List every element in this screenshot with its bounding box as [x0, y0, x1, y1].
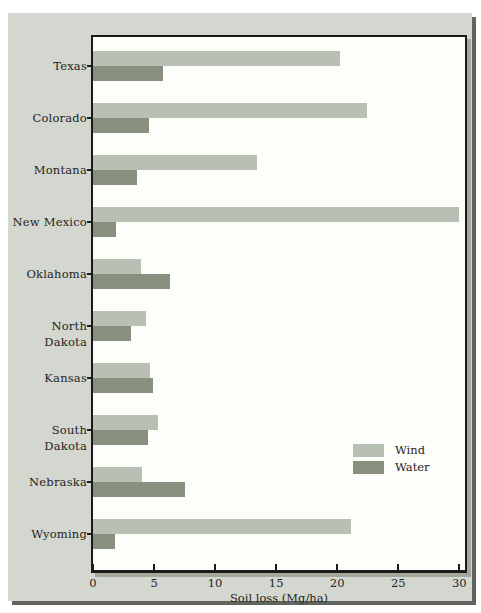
- wind-bar: [93, 415, 158, 430]
- x-tick-label: 15: [259, 576, 293, 590]
- wind-bar: [93, 363, 150, 378]
- x-axis-title: Soil loss (Mg/ha): [179, 591, 379, 605]
- y-tick: [87, 65, 92, 67]
- figure-panel: TexasColoradoMontanaNew MexicoOklahomaNo…: [8, 13, 472, 601]
- legend-swatch-water: [353, 461, 384, 474]
- y-tick: [87, 533, 92, 535]
- x-tick-label: 10: [198, 576, 232, 590]
- wind-bar: [93, 259, 141, 274]
- x-tick-label: 5: [137, 576, 171, 590]
- water-bar: [93, 170, 137, 185]
- legend-label: Wind: [395, 444, 425, 457]
- x-tick: [214, 564, 216, 570]
- chart-figure: TexasColoradoMontanaNew MexicoOklahomaNo…: [0, 0, 481, 613]
- category-label: Oklahoma: [12, 266, 87, 282]
- water-bar: [93, 378, 153, 393]
- x-tick-label: 30: [442, 576, 476, 590]
- legend: WindWater: [353, 444, 430, 478]
- x-tick-label: 25: [381, 576, 415, 590]
- legend-label: Water: [395, 461, 430, 474]
- y-tick: [87, 117, 92, 119]
- wind-bar: [93, 467, 142, 482]
- category-label: Montana: [12, 162, 87, 178]
- y-tick: [87, 325, 92, 327]
- x-tick: [458, 564, 460, 570]
- water-bar: [93, 534, 115, 549]
- wind-bar: [93, 207, 459, 222]
- x-tick: [397, 564, 399, 570]
- wind-bar: [93, 51, 340, 66]
- legend-entry: Wind: [353, 444, 430, 457]
- water-bar: [93, 118, 149, 133]
- water-bar: [93, 482, 185, 497]
- legend-swatch-wind: [353, 444, 384, 457]
- y-tick: [87, 429, 92, 431]
- category-label: Nebraska: [12, 474, 87, 490]
- category-label: North Dakota: [12, 318, 87, 334]
- category-label: Wyoming: [12, 526, 87, 542]
- y-tick: [87, 273, 92, 275]
- category-label: Texas: [12, 58, 87, 74]
- x-tick: [153, 564, 155, 570]
- wind-bar: [93, 155, 257, 170]
- wind-bar: [93, 311, 146, 326]
- wind-bar: [93, 519, 351, 534]
- category-label: Colorado: [12, 110, 87, 126]
- wind-bar: [93, 103, 367, 118]
- y-tick: [87, 377, 92, 379]
- y-tick: [87, 169, 92, 171]
- x-tick: [336, 564, 338, 570]
- legend-entry: Water: [353, 461, 430, 474]
- x-tick-label: 20: [320, 576, 354, 590]
- x-tick: [92, 564, 94, 570]
- water-bar: [93, 274, 170, 289]
- category-label: New Mexico: [12, 214, 87, 230]
- y-tick: [87, 481, 92, 483]
- water-bar: [93, 222, 116, 237]
- category-label: Kansas: [12, 370, 87, 386]
- water-bar: [93, 66, 163, 81]
- plot-area: [91, 35, 467, 573]
- y-tick: [87, 221, 92, 223]
- category-label: South Dakota: [12, 422, 87, 438]
- x-tick: [275, 564, 277, 570]
- water-bar: [93, 326, 131, 341]
- water-bar: [93, 430, 148, 445]
- x-tick-label: 0: [76, 576, 110, 590]
